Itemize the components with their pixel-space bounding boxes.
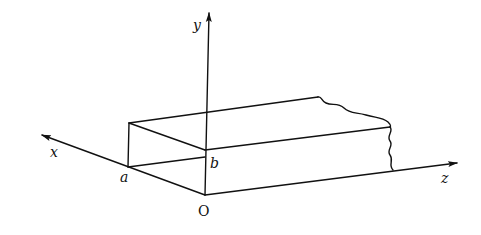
z-axis-label: z	[440, 170, 449, 186]
box-edge-top-front	[205, 127, 390, 150]
break-line-side	[389, 127, 393, 170]
box-edge-top-slant	[129, 123, 205, 150]
break-line-top	[318, 97, 391, 127]
waveguide-diagram: y x z O a b	[0, 0, 481, 235]
b-label: b	[210, 155, 219, 171]
y-axis	[205, 13, 209, 195]
y-axis-label: y	[192, 17, 202, 33]
box-edge-top-back	[129, 97, 318, 123]
x-axis-label: x	[50, 144, 58, 160]
x-axis	[42, 135, 205, 195]
z-axis	[205, 163, 457, 195]
box-edge-bottom-ab	[128, 157, 205, 167]
origin-label: O	[198, 203, 209, 219]
box-edge-left-vertical	[128, 123, 129, 167]
a-label: a	[120, 169, 128, 185]
